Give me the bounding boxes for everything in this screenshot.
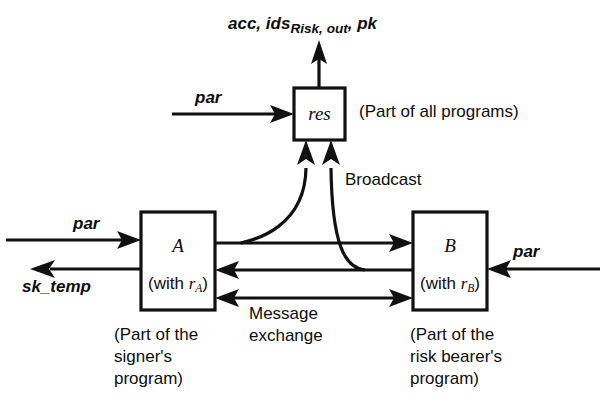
arrow-sk-temp-out	[30, 260, 141, 278]
arrow-b-to-a-2	[215, 261, 413, 279]
arrow-broadcast-right	[322, 140, 365, 270]
arrow-res-output	[311, 40, 327, 88]
top-output-prefix: acc, ids	[228, 14, 290, 33]
arrow-par-into-b	[487, 260, 600, 278]
box-b-sub-suffix: )	[474, 274, 480, 293]
arrow-par-into-res	[172, 105, 294, 123]
box-a-title: A	[141, 235, 215, 257]
label-par-res: par	[195, 88, 221, 108]
label-broadcast: Broadcast	[345, 170, 422, 190]
box-b-sub-prefix: (with	[420, 274, 461, 293]
diagram-vector-layer	[0, 0, 606, 417]
caption-box-b: (Part of the risk bearer's program)	[410, 324, 502, 390]
arrow-a-to-b-1	[215, 234, 413, 252]
caption-res: (Part of all programs)	[359, 102, 519, 122]
top-output-suffix: , pk	[348, 14, 377, 33]
label-message-exchange: Message exchange	[249, 303, 323, 347]
box-a-sub-suffix: )	[202, 274, 208, 293]
box-a-sub-prefix: (with	[148, 274, 189, 293]
top-output-subscript: Risk, out	[290, 21, 347, 36]
label-par-b: par	[513, 242, 539, 262]
box-a-subtitle: (with rA)	[141, 274, 215, 296]
caption-box-a: (Part of the signer's program)	[114, 324, 198, 390]
diagram-canvas: acc, idsRisk, out, pk par res (Part of a…	[0, 0, 606, 417]
box-b-subtitle: (with rB)	[413, 274, 487, 296]
label-sk-temp: sk_temp	[22, 277, 91, 297]
top-output-formula: acc, idsRisk, out, pk	[228, 14, 377, 38]
box-res-title: res	[294, 103, 345, 125]
box-b-title: B	[413, 235, 487, 257]
label-par-a: par	[73, 214, 99, 234]
arrow-broadcast-left	[241, 140, 315, 243]
